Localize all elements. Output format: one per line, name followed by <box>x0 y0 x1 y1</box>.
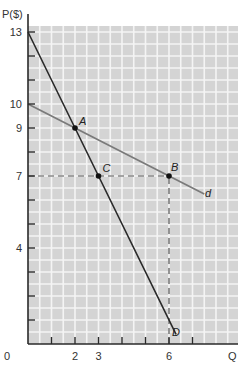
x-tick-label: 3 <box>95 350 101 362</box>
point-a <box>72 125 78 131</box>
x-tick-label: 2 <box>72 350 78 362</box>
y-tick-label: 4 <box>16 242 22 254</box>
point-c <box>96 173 102 179</box>
grid <box>28 26 238 344</box>
y-tick-label: 9 <box>16 122 22 134</box>
y-tick-label: 7 <box>16 170 22 182</box>
x-tick-label: 6 <box>166 350 172 362</box>
curve-label-d: d <box>205 187 212 199</box>
point-label-a: A <box>78 115 86 127</box>
point-label-b: B <box>171 161 178 173</box>
y-axis-title: P($) <box>2 8 23 20</box>
x-axis-title: Q <box>228 350 237 362</box>
y-tick-label: 13 <box>10 26 22 38</box>
curve-label-D: D <box>172 326 180 338</box>
y-tick-label: 10 <box>10 98 22 110</box>
demand-chart: 1310974236 ACBDd P($) Q 0 <box>0 0 249 369</box>
origin-label: 0 <box>4 350 10 362</box>
point-b <box>166 173 172 179</box>
point-label-c: C <box>103 162 111 174</box>
